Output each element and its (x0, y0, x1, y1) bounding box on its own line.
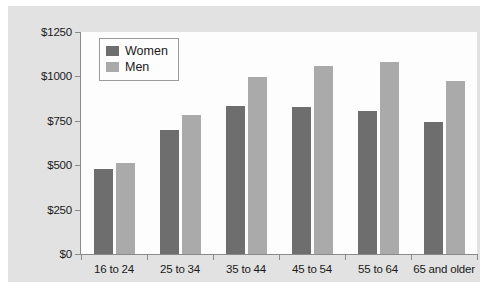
chart-panel: $0$250$500$750$1000$1250 16 to 2425 to 3… (8, 6, 480, 282)
bar-group: 65 and older (411, 32, 477, 254)
y-axis-tick-label: $1000 (41, 70, 81, 82)
chart-legend: Women Men (99, 38, 179, 81)
x-axis-tick-mark (213, 254, 214, 260)
legend-swatch-women-icon (106, 46, 119, 56)
x-axis-category-label: 35 to 44 (213, 263, 279, 275)
x-axis-tick-mark (279, 254, 280, 260)
bar-men (446, 81, 465, 254)
legend-item-men: Men (106, 59, 168, 75)
y-axis-tick-label: $250 (47, 204, 81, 216)
y-axis-tick-label: $1250 (41, 26, 81, 38)
y-axis-tick-label: $750 (47, 115, 81, 127)
bar-men (380, 62, 399, 254)
bar-women (292, 107, 311, 254)
bar-chart-figure: $0$250$500$750$1000$1250 16 to 2425 to 3… (0, 0, 488, 300)
bar-women (160, 130, 179, 254)
bar-group-bars (345, 32, 411, 254)
bar-men (116, 163, 135, 254)
x-axis-tick-mark (81, 254, 82, 260)
x-axis-category-label: 45 to 54 (279, 263, 345, 275)
x-axis-category-label: 25 to 34 (147, 263, 213, 275)
x-axis-tick-mark (345, 254, 346, 260)
bar-group-bars (411, 32, 477, 254)
legend-swatch-men-icon (106, 62, 119, 72)
legend-item-women: Women (106, 43, 168, 59)
bar-group-bars (279, 32, 345, 254)
bar-women (226, 106, 245, 254)
y-axis-tick-label: $0 (60, 248, 81, 260)
x-axis-tick-mark (147, 254, 148, 260)
bar-men (248, 77, 267, 254)
x-axis-category-label: 65 and older (411, 263, 477, 275)
bar-men (182, 115, 201, 254)
legend-label-women: Women (125, 45, 168, 58)
bar-women (358, 111, 377, 254)
bar-group: 35 to 44 (213, 32, 279, 254)
bar-men (314, 66, 333, 254)
x-axis-tick-mark (477, 254, 478, 260)
x-axis-category-label: 16 to 24 (81, 263, 147, 275)
legend-label-men: Men (125, 61, 149, 74)
x-axis-category-label: 55 to 64 (345, 263, 411, 275)
bar-group-bars (213, 32, 279, 254)
bar-group: 45 to 54 (279, 32, 345, 254)
x-axis-tick-mark (411, 254, 412, 260)
bar-group: 55 to 64 (345, 32, 411, 254)
bar-women (424, 122, 443, 254)
y-axis-tick-label: $500 (47, 159, 81, 171)
bar-women (94, 169, 113, 254)
plot-area: $0$250$500$750$1000$1250 16 to 2425 to 3… (80, 32, 477, 255)
